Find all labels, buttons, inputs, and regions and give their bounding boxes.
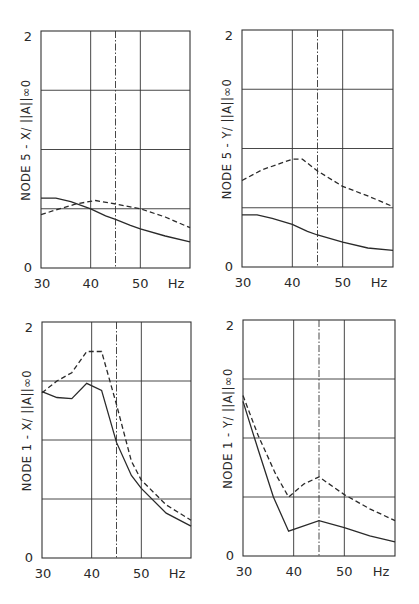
- x-tick-label: 40: [82, 276, 99, 291]
- figure: 02304050HzNODE 5 - X/ ||A||∞002304050HzN…: [0, 0, 419, 604]
- x-tick-label: 30: [35, 566, 52, 581]
- y-tick-label: 0: [25, 550, 33, 565]
- y-tick-label: 2: [24, 29, 32, 44]
- y-axis-label: NODE 5 - X/ ||A||∞0: [19, 79, 33, 200]
- x-tick-label: 50: [334, 275, 351, 290]
- chart-panel-node5-x: 02304050HzNODE 5 - X/ ||A||∞0: [19, 29, 190, 291]
- chart-panel-node1-y: 02304050HzNODE 1 - Y/ ||A||∞0: [221, 318, 395, 579]
- chart-panel-node1-x: 02304050HzNODE 1 - X/ ||A||∞0: [20, 320, 191, 581]
- x-tick-label: 50: [336, 564, 353, 579]
- x-tick-label: 40: [83, 566, 100, 581]
- y-tick-label: 0: [24, 260, 32, 275]
- x-tick-label: 40: [284, 275, 301, 290]
- x-axis-unit-label: Hz: [169, 566, 186, 581]
- y-tick-label: 2: [25, 320, 33, 335]
- y-axis-label: NODE 1 - Y/ ||A||∞0: [221, 368, 235, 489]
- x-tick-label: 40: [285, 564, 302, 579]
- y-tick-label: 0: [226, 548, 234, 563]
- x-axis-unit-label: Hz: [371, 275, 388, 290]
- chart-panel-node5-y: 02304050HzNODE 5 - Y/ ||A||∞0: [220, 28, 393, 290]
- y-axis-label: NODE 5 - Y/ ||A||∞0: [220, 79, 234, 200]
- x-axis-unit-label: Hz: [168, 276, 185, 291]
- x-tick-label: 50: [133, 566, 150, 581]
- y-tick-label: 0: [225, 259, 233, 274]
- x-tick-label: 30: [236, 564, 253, 579]
- x-axis-unit-label: Hz: [373, 564, 390, 579]
- y-axis-label: NODE 1 - X/ ||A||∞0: [20, 370, 34, 491]
- x-tick-label: 30: [235, 275, 252, 290]
- x-tick-label: 50: [132, 276, 149, 291]
- y-tick-label: 2: [226, 318, 234, 333]
- x-tick-label: 30: [34, 276, 51, 291]
- y-tick-label: 2: [225, 28, 233, 43]
